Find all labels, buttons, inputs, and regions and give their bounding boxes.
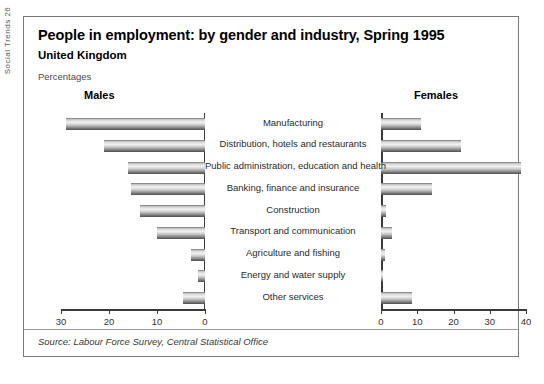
bar-row	[381, 113, 526, 135]
bar-chart-males: 3020100	[61, 113, 205, 309]
bar-females-2	[381, 162, 521, 174]
bar-females-4	[381, 205, 386, 217]
bar-row	[61, 222, 205, 244]
source-note: Source: Labour Force Survey, Central Sta…	[38, 336, 268, 347]
bar-row	[61, 178, 205, 200]
category-label: Public administration, education and hea…	[205, 160, 381, 171]
axis-tick-label: 10	[412, 316, 423, 327]
axis-tick	[109, 309, 110, 314]
bar-row	[381, 200, 526, 222]
margin-side-text: Social Trends 26	[0, 6, 16, 76]
bar-males-1	[104, 140, 205, 152]
chart-frame: People in employment: by gender and indu…	[23, 16, 519, 357]
panel-heading-females: Females	[414, 89, 458, 101]
bar-row	[381, 244, 526, 266]
axis-tick	[61, 309, 62, 314]
panel-heading-males: Males	[84, 89, 115, 101]
axis-tick-label: 0	[202, 316, 207, 327]
bar-row	[381, 222, 526, 244]
category-label: Agriculture and fishing	[205, 247, 381, 258]
bar-females-7	[381, 270, 383, 282]
axis-tick	[526, 309, 527, 314]
page-title: People in employment: by gender and indu…	[38, 27, 445, 43]
bar-females-0	[381, 118, 421, 130]
margin-side-text-label: Social Trends 26	[3, 7, 12, 75]
category-label: Construction	[205, 204, 381, 215]
category-label: Other services	[205, 291, 381, 302]
axis-tick	[157, 309, 158, 314]
bar-females-1	[381, 140, 461, 152]
bar-males-0	[66, 118, 205, 130]
bar-males-7	[198, 270, 205, 282]
bar-row	[61, 287, 205, 309]
bar-females-3	[381, 183, 432, 195]
axis-tick	[205, 309, 206, 314]
bar-row	[61, 244, 205, 266]
bar-chart-females: 010203040	[381, 113, 526, 309]
axis-tick	[454, 309, 455, 314]
axis-tick-label: 20	[448, 316, 459, 327]
bar-females-6	[381, 249, 385, 261]
bar-females-8	[381, 292, 412, 304]
category-label: Energy and water supply	[205, 269, 381, 280]
bar-row	[381, 178, 526, 200]
axis-tick-label: 30	[56, 316, 67, 327]
category-label: Banking, finance and insurance	[205, 182, 381, 193]
axis-tick	[490, 309, 491, 314]
bar-row	[61, 135, 205, 157]
bar-row	[381, 135, 526, 157]
axis-tick-label: 30	[484, 316, 495, 327]
bar-row	[381, 287, 526, 309]
chart-subtitle: United Kingdom	[38, 49, 127, 61]
bar-males-6	[191, 249, 205, 261]
footer-divider	[24, 329, 518, 330]
category-label: Distribution, hotels and restaurants	[205, 138, 381, 149]
bar-males-4	[140, 205, 205, 217]
category-label: Manufacturing	[205, 117, 381, 128]
axis-tick-label: 20	[104, 316, 115, 327]
bar-row	[61, 113, 205, 135]
bar-row	[61, 157, 205, 179]
bar-females-5	[381, 227, 392, 239]
figure-root: Social Trends 26 People in employment: b…	[0, 0, 544, 384]
bar-males-5	[157, 227, 205, 239]
axis-tick-label: 0	[378, 316, 383, 327]
axis-tick	[381, 309, 382, 314]
bar-row	[61, 200, 205, 222]
bar-males-2	[128, 162, 205, 174]
bar-males-3	[131, 183, 205, 195]
axis-horizontal-males	[61, 309, 205, 311]
axis-tick-label: 40	[521, 316, 532, 327]
axis-tick-label: 10	[152, 316, 163, 327]
bar-row	[61, 265, 205, 287]
bar-row	[381, 265, 526, 287]
axis-tick	[417, 309, 418, 314]
bar-males-8	[183, 292, 205, 304]
category-label: Transport and communication	[205, 225, 381, 236]
units-label: Percentages	[38, 71, 91, 82]
bar-row	[381, 157, 526, 179]
